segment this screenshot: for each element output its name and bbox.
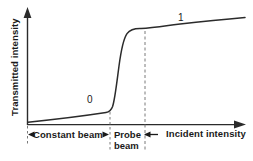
probe-beam-region-label: Probe beam: [114, 129, 144, 151]
constant-beam-region-label: Constant beam: [33, 129, 103, 140]
x-axis-label: Incident intensity: [166, 129, 246, 139]
state-label-high: 1: [178, 12, 184, 23]
transmission-curve: [28, 18, 245, 123]
y-axis: [24, 7, 32, 125]
y-axis-label: Transmitted intensity: [10, 20, 20, 116]
transmission-curve-figure: Transmitted intensity Incident intensity…: [0, 0, 253, 161]
state-label-low: 0: [87, 94, 93, 105]
probe-beam-span-arrow: [144, 132, 158, 138]
